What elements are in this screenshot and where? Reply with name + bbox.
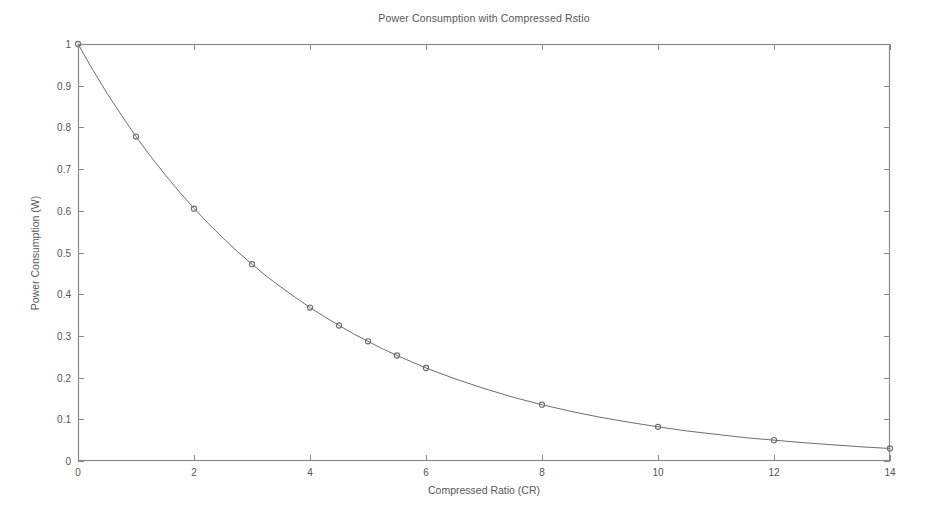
y-tick-label: 0.9 — [57, 80, 71, 91]
axis-box — [79, 45, 890, 461]
x-tick-label: 14 — [884, 467, 895, 478]
chart-title: Power Consumption with Compressed Rstio — [78, 12, 890, 24]
y-tick-label: 0.6 — [57, 205, 71, 216]
x-tick-label: 6 — [423, 467, 429, 478]
x-tick-label: 12 — [768, 467, 779, 478]
y-tick-label: 0 — [65, 456, 71, 467]
x-tick-label: 10 — [652, 467, 663, 478]
y-tick-label: 0.4 — [57, 289, 71, 300]
x-axis-label: Compressed Ratio (CR) — [78, 484, 890, 496]
data-series — [78, 44, 890, 448]
plot-svg — [78, 44, 890, 461]
y-tick-label: 0.5 — [57, 247, 71, 258]
y-tick-label: 0.7 — [57, 164, 71, 175]
y-axis-label-text: Power Consumption (W) — [29, 195, 41, 309]
y-tick-label: 0.2 — [57, 372, 71, 383]
x-tick-label: 2 — [191, 467, 197, 478]
x-tick-label: 0 — [75, 467, 81, 478]
x-tick-label: 8 — [539, 467, 545, 478]
data-markers — [75, 41, 892, 451]
plot-area: 00.10.20.30.40.50.60.70.80.91 0246810121… — [78, 44, 890, 461]
figure-canvas: Power Consumption with Compressed Rstio … — [0, 0, 927, 513]
y-tick-label: 0.8 — [57, 122, 71, 133]
x-tick-label: 4 — [307, 467, 313, 478]
y-tick-label: 0.3 — [57, 330, 71, 341]
y-axis-label: Power Consumption (W) — [26, 44, 44, 461]
y-tick-label: 1 — [65, 39, 71, 50]
axis-ticks — [78, 44, 891, 462]
y-tick-label: 0.1 — [57, 414, 71, 425]
